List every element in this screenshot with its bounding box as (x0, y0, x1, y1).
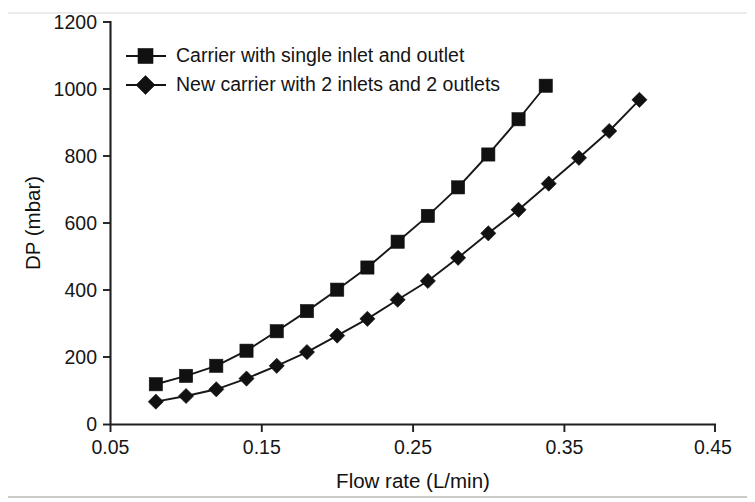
square-data-point (210, 359, 223, 372)
square-data-point (482, 148, 495, 161)
x-tick-label: 0.15 (243, 436, 281, 458)
square-data-point (391, 235, 404, 248)
x-tick-label: 0.35 (545, 436, 583, 458)
y-tick-label: 800 (64, 145, 97, 167)
y-tick-label: 600 (64, 212, 97, 234)
legend-entry-diamond[interactable]: New carrier with 2 inlets and 2 outlets (126, 73, 500, 95)
y-tick-label: 400 (64, 279, 97, 301)
legend-label: New carrier with 2 inlets and 2 outlets (176, 73, 500, 95)
square-data-point (240, 344, 253, 357)
x-tick-label: 0.05 (92, 436, 130, 458)
square-data-point (300, 305, 313, 318)
square-data-point (149, 378, 162, 391)
legend-label: Carrier with single inlet and outlet (176, 44, 465, 66)
square-data-point (361, 261, 374, 274)
square-data-point (331, 283, 344, 296)
square-data-point (179, 369, 192, 382)
square-data-point (270, 325, 283, 338)
square-data-point (421, 209, 434, 222)
square-data-point (451, 181, 464, 194)
x-axis-title: Flow rate (L/min) (336, 469, 490, 492)
x-tick-label: 0.45 (694, 436, 732, 458)
y-tick-label: 1000 (54, 78, 98, 100)
square-data-point (539, 79, 552, 92)
line-chart: 1200 1000 800 600 400 200 (0, 0, 755, 502)
square-marker-icon (138, 49, 153, 64)
chart-figure: 1200 1000 800 600 400 200 (0, 0, 755, 502)
y-axis-title: DP (mbar) (21, 176, 44, 270)
legend-entry-square[interactable]: Carrier with single inlet and outlet (126, 44, 465, 66)
y-tick-label: 1200 (54, 11, 98, 33)
x-tick-label: 0.25 (394, 436, 432, 458)
square-data-point (512, 113, 525, 126)
y-tick-label: 0 (86, 413, 97, 435)
y-tick-label: 200 (64, 346, 97, 368)
